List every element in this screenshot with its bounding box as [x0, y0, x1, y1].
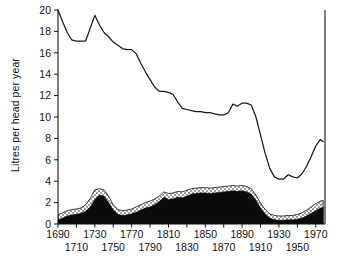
- y-tick-label: 16: [39, 47, 51, 59]
- y-tick-label: 10: [39, 111, 51, 123]
- x-tick-label: 1750: [102, 241, 126, 253]
- y-tick-label: 4: [45, 175, 51, 187]
- x-tick-label: 1690: [46, 228, 70, 240]
- x-tick-label: 1810: [157, 228, 181, 240]
- chart-plot-svg: 02468101214161820 1690171017301750177017…: [0, 0, 340, 269]
- x-tick-label: 1710: [65, 241, 89, 253]
- y-tick-label: 12: [39, 89, 51, 101]
- x-tick-label: 1790: [138, 241, 162, 253]
- chart-area-series: [58, 185, 323, 224]
- y-tick-label: 8: [45, 132, 51, 144]
- x-tick-label: 1830: [175, 241, 199, 253]
- x-tick-label: 1850: [194, 228, 218, 240]
- x-tick-label: 1870: [212, 241, 236, 253]
- y-tick-label: 18: [39, 25, 51, 37]
- x-axis-ticks: 1690171017301750177017901810183018501870…: [46, 224, 327, 253]
- y-tick-label: 2: [45, 196, 51, 208]
- y-tick-label: 20: [39, 4, 51, 16]
- chart-figure: Litres per head per year 024681012141618…: [0, 0, 340, 269]
- x-tick-label: 1890: [230, 228, 254, 240]
- x-tick-label: 1910: [249, 241, 273, 253]
- x-tick-label: 1930: [267, 228, 291, 240]
- x-tick-label: 1970: [304, 228, 328, 240]
- x-tick-label: 1730: [83, 228, 107, 240]
- x-tick-label: 1770: [120, 228, 144, 240]
- y-tick-label: 14: [39, 68, 51, 80]
- x-tick-label: 1950: [286, 241, 310, 253]
- y-tick-label: 6: [45, 154, 51, 166]
- upper-line-path: [58, 10, 323, 179]
- y-axis-ticks: 02468101214161820: [39, 4, 58, 230]
